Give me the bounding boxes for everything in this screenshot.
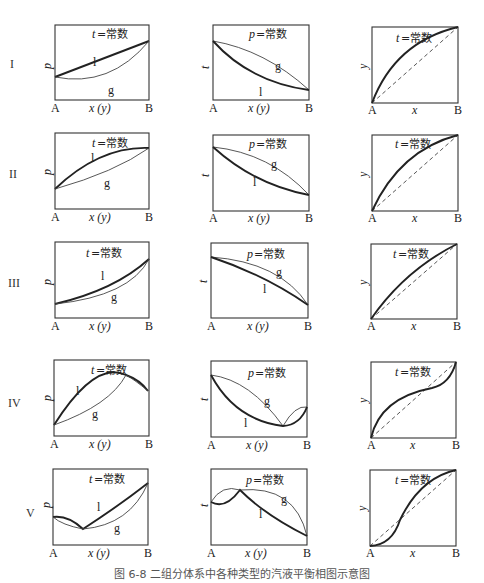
row-V: V t =常数 l g p A x (y) B p =常数 g l t A x … bbox=[26, 469, 460, 560]
row-IV: IV t =常数 l g p A x (y) B p =常数 g l t A x… bbox=[8, 360, 460, 452]
axis-right-B: B bbox=[305, 211, 313, 225]
y-axis-label: y bbox=[355, 505, 369, 512]
row-label-III: III bbox=[8, 276, 20, 290]
condition-text: =常数 bbox=[256, 28, 287, 41]
vapor-label: g bbox=[276, 265, 282, 279]
liquid-line bbox=[55, 41, 149, 77]
y-axis-label: t bbox=[197, 503, 211, 507]
phase-diagram-figure: I t =常数 l g p A x (y) B p =常数 g l t A x … bbox=[0, 0, 484, 583]
axis-right-B: B bbox=[145, 210, 153, 224]
axis-left-A: A bbox=[209, 211, 218, 225]
condition-text: =常数 bbox=[400, 474, 431, 487]
y-axis-label: t bbox=[198, 173, 212, 177]
condition-var: t bbox=[393, 247, 397, 261]
row-I: I t =常数 l g p A x (y) B p =常数 g l t A x … bbox=[10, 25, 462, 117]
axis-left-A: A bbox=[368, 211, 377, 225]
condition-var: t bbox=[395, 473, 399, 487]
y-axis-label: p bbox=[40, 279, 54, 286]
condition-text: =常数 bbox=[398, 248, 429, 261]
x-axis-label: x bbox=[411, 211, 418, 225]
x-axis-label: x (y) bbox=[244, 546, 267, 560]
axis-left-A: A bbox=[51, 210, 60, 224]
condition-text: =常数 bbox=[253, 474, 284, 487]
axis-right-B: B bbox=[304, 319, 312, 333]
liquid-line bbox=[211, 257, 308, 305]
row-label-IV: IV bbox=[8, 396, 21, 410]
condition-var: t bbox=[89, 472, 93, 486]
x-axis-label: x (y) bbox=[245, 438, 268, 452]
axis-right-B: B bbox=[305, 101, 313, 115]
condition-text: =常数 bbox=[97, 137, 128, 150]
condition-text: =常数 bbox=[94, 473, 125, 486]
vapor-line bbox=[53, 483, 148, 529]
condition-text: =常数 bbox=[256, 138, 287, 151]
y-axis-label: p bbox=[40, 395, 54, 402]
axis-left-A: A bbox=[49, 546, 58, 560]
axis-right-B: B bbox=[452, 438, 460, 452]
condition-var: t bbox=[91, 363, 95, 377]
vapor-line bbox=[213, 41, 309, 90]
x-axis-label: x bbox=[409, 438, 416, 452]
vapor-label: g bbox=[271, 157, 277, 171]
liquid-label: l bbox=[97, 500, 101, 514]
vapor-label: g bbox=[92, 407, 98, 421]
x-axis-label: x (y) bbox=[247, 101, 270, 115]
panel-II-tx: p =常数 g l t A x (y) B bbox=[198, 135, 313, 225]
vapor-label: g bbox=[108, 83, 114, 97]
vapor-line bbox=[211, 375, 307, 426]
liquid-line bbox=[213, 147, 309, 195]
y-axis-label: y bbox=[356, 279, 370, 286]
y-axis-label: p bbox=[39, 502, 53, 509]
liquid-label: l bbox=[259, 85, 263, 99]
axis-right-B: B bbox=[145, 101, 153, 115]
liquid-line bbox=[211, 375, 307, 426]
y-axis-label: t bbox=[196, 279, 210, 283]
vapor-line bbox=[55, 148, 149, 189]
x-axis-label: x (y) bbox=[88, 210, 111, 224]
liquid-line bbox=[55, 148, 149, 189]
panel-V-px: t =常数 l g p A x (y) B bbox=[39, 469, 152, 560]
row-label-II: II bbox=[9, 167, 17, 181]
axis-left-A: A bbox=[367, 438, 376, 452]
panel-IV-yx: t =常数 y A x B bbox=[356, 362, 460, 452]
condition-var: t bbox=[395, 137, 399, 151]
liquid-label: l bbox=[91, 151, 95, 165]
panel-V-tx: p =常数 g l t A x (y) B bbox=[197, 469, 311, 560]
vapor-line bbox=[211, 257, 308, 305]
panel-II-px: t =常数 l g p A x (y) B bbox=[40, 133, 153, 224]
condition-var: t bbox=[86, 246, 90, 260]
vapor-label: g bbox=[275, 59, 281, 73]
axis-left-A: A bbox=[51, 319, 60, 333]
axis-right-B: B bbox=[454, 211, 462, 225]
x-axis-label: x (y) bbox=[88, 101, 111, 115]
x-axis-label: x bbox=[411, 103, 418, 117]
y-axis-label: t bbox=[198, 65, 212, 69]
vapor-label: g bbox=[264, 394, 270, 408]
axis-left-A: A bbox=[51, 101, 60, 115]
condition-var: p bbox=[248, 137, 255, 151]
liquid-label: l bbox=[263, 282, 267, 296]
axis-right-B: B bbox=[303, 438, 311, 452]
condition-var: p bbox=[248, 27, 255, 41]
y-axis-label: y bbox=[356, 63, 370, 70]
axis-left-A: A bbox=[209, 101, 218, 115]
condition-var: t bbox=[395, 365, 399, 379]
x-axis-label: x (y) bbox=[247, 211, 270, 225]
y-axis-label: y bbox=[356, 171, 370, 178]
x-axis-label: x (y) bbox=[87, 546, 110, 560]
axis-left-A: A bbox=[366, 546, 375, 560]
y-axis-label: t bbox=[197, 397, 211, 401]
axis-right-B: B bbox=[452, 546, 460, 560]
row-label-I: I bbox=[10, 57, 14, 71]
y-axis-label: y bbox=[356, 397, 370, 404]
panel-III-tx: p =常数 g l t A x (y) B bbox=[196, 243, 312, 333]
panel-IV-px: t =常数 l g p A x (y) B bbox=[40, 360, 153, 451]
liquid-line bbox=[213, 41, 309, 90]
y-axis-label: p bbox=[40, 63, 54, 70]
vapor-label: g bbox=[104, 176, 110, 190]
panel-V-yx: t =常数 y A x B bbox=[355, 470, 460, 560]
axis-left-A: A bbox=[50, 437, 59, 451]
condition-text: =常数 bbox=[91, 247, 122, 260]
vapor-label: g bbox=[114, 521, 120, 535]
axis-right-B: B bbox=[454, 103, 462, 117]
